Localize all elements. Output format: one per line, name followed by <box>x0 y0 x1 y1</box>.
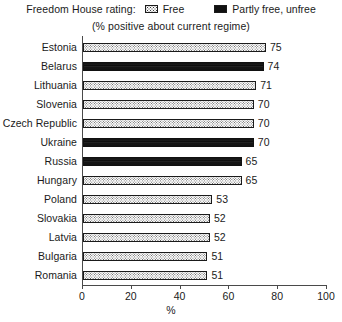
bar-unfree <box>83 157 242 166</box>
x-tick-mark <box>131 285 132 289</box>
bar-value-label: 70 <box>258 95 270 114</box>
chart-legend: Freedom House rating: Free Partly free, … <box>0 1 342 17</box>
bar-row: Hungary65 <box>0 171 342 190</box>
bar-value-label: 70 <box>258 133 270 152</box>
bar-value-label: 51 <box>211 266 223 285</box>
bar-value-label: 52 <box>214 228 226 247</box>
x-tick-mark <box>326 285 327 289</box>
legend-title: Freedom House rating: <box>26 3 135 15</box>
bar-row: Estonia75 <box>0 38 342 57</box>
bar-unfree <box>83 62 264 71</box>
bar-free <box>83 119 254 128</box>
bar-category-label: Belarus <box>0 57 77 76</box>
legend-entry-unfree: Partly free, unfree <box>214 3 315 15</box>
bar-row: Romania51 <box>0 266 342 285</box>
bar-row: Belarus74 <box>0 57 342 76</box>
x-tick-mark <box>228 285 229 289</box>
bar-row: Russia65 <box>0 152 342 171</box>
x-axis-line <box>82 285 327 286</box>
x-tick-label: 80 <box>257 290 297 302</box>
bar-free <box>83 252 207 261</box>
bar-category-label: Lithuania <box>0 76 77 95</box>
bar-value-label: 70 <box>258 114 270 133</box>
bar-row: Latvia52 <box>0 228 342 247</box>
x-tick-mark <box>82 285 83 289</box>
bar-category-label: Latvia <box>0 228 77 247</box>
x-tick-mark <box>277 285 278 289</box>
bar-value-label: 74 <box>268 57 280 76</box>
bar-value-label: 71 <box>260 76 272 95</box>
bar-row: Ukraine70 <box>0 133 342 152</box>
bar-value-label: 53 <box>216 190 228 209</box>
bar-free <box>83 195 212 204</box>
bar-free <box>83 176 242 185</box>
x-tick-label: 100 <box>306 290 342 302</box>
bar-value-label: 51 <box>211 247 223 266</box>
chart-subtitle: (% positive about current regime) <box>0 20 342 32</box>
bar-category-label: Romania <box>0 266 77 285</box>
bar-value-label: 65 <box>246 171 258 190</box>
bar-category-label: Bulgaria <box>0 247 77 266</box>
bar-row: Lithuania71 <box>0 76 342 95</box>
x-tick-label: 60 <box>208 290 248 302</box>
bar-free <box>83 233 210 242</box>
bar-value-label: 65 <box>246 152 258 171</box>
bar-free <box>83 214 210 223</box>
legend-swatch-free-icon <box>145 5 158 13</box>
bar-row: Poland53 <box>0 190 342 209</box>
bar-category-label: Poland <box>0 190 77 209</box>
bar-category-label: Slovakia <box>0 209 77 228</box>
bar-row: Slovenia70 <box>0 95 342 114</box>
x-tick-label: 40 <box>160 290 200 302</box>
legend-entry-free: Free <box>145 3 185 15</box>
bar-value-label: 52 <box>214 209 226 228</box>
bar-category-label: Czech Republic <box>0 114 77 133</box>
bar-row: Slovakia52 <box>0 209 342 228</box>
legend-label-free: Free <box>163 3 185 15</box>
bar-unfree <box>83 138 254 147</box>
bar-category-label: Ukraine <box>0 133 77 152</box>
bar-category-label: Hungary <box>0 171 77 190</box>
bar-free <box>83 271 207 280</box>
bar-category-label: Russia <box>0 152 77 171</box>
legend-swatch-unfree-icon <box>214 5 227 13</box>
chart-plot-area: Estonia75Belarus74Lithuania71Slovenia70C… <box>0 36 342 286</box>
bar-category-label: Estonia <box>0 38 77 57</box>
bar-free <box>83 43 266 52</box>
bar-value-label: 75 <box>270 38 282 57</box>
x-tick-label: 20 <box>111 290 151 302</box>
bar-category-label: Slovenia <box>0 95 77 114</box>
x-tick-mark <box>180 285 181 289</box>
legend-label-unfree: Partly free, unfree <box>232 3 315 15</box>
x-tick-label: 0 <box>62 290 102 302</box>
bar-free <box>83 81 256 90</box>
bar-row: Bulgaria51 <box>0 247 342 266</box>
x-axis-title: % <box>0 304 342 316</box>
bar-free <box>83 100 254 109</box>
bar-row: Czech Republic70 <box>0 114 342 133</box>
